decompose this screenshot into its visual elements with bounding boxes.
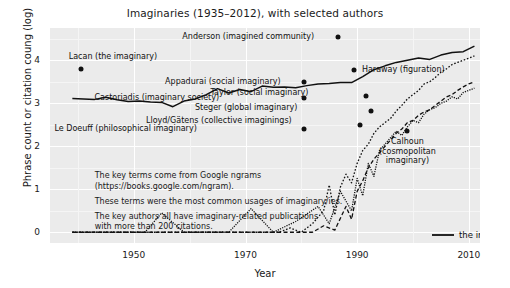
annotation-label: Haraway (figuration)	[362, 65, 445, 75]
note-paragraph: These terms were the most common usages …	[95, 197, 343, 208]
note-paragraph: The key terms come from Google ngrams(ht…	[95, 171, 343, 193]
x-tick-label: 1950	[104, 250, 164, 260]
annotation-label: Lacan (the imaginary)	[69, 52, 157, 62]
note-line: with more than 200 citations.	[95, 222, 213, 231]
legend-line-swatch	[432, 242, 454, 243]
annotation-point	[405, 129, 410, 134]
x-tick-label: 1990	[327, 250, 387, 260]
y-tick-label: 4	[0, 55, 40, 65]
annotation-label: Calhoun(cosmopolitanimaginary)	[367, 137, 447, 166]
annotation-point	[302, 96, 307, 101]
x-tick-label: 2010	[439, 250, 499, 260]
annotation-line: imaginary)	[367, 156, 447, 166]
note-line: The key terms come from Google ngrams	[95, 171, 261, 180]
annotation-point	[363, 93, 368, 98]
note-line: The key authors all have imaginary-relat…	[95, 212, 318, 221]
note-line: (https://books.google.com/ngram).	[95, 182, 234, 191]
notes-block: The key terms come from Google ngrams(ht…	[95, 171, 343, 233]
chart-title: Imaginaries (1935–2012), with selected a…	[0, 7, 510, 19]
legend-label: the imaginary	[459, 230, 480, 240]
annotation-label: Appadurai (social imaginary)	[50, 77, 285, 87]
annotation-point	[302, 79, 307, 84]
legend-label: social imaginary	[459, 242, 480, 243]
y-tick-label: 1	[0, 184, 40, 194]
annotation-point	[335, 34, 340, 39]
x-tick-label: 1970	[215, 250, 275, 260]
chart-legend: the imaginarysocial imaginarycultural im…	[432, 229, 480, 243]
legend-item[interactable]: the imaginary	[432, 229, 480, 241]
annotation-label: Le Doeuff (philosophical imaginary)	[50, 124, 201, 134]
legend-line-swatch	[432, 230, 454, 240]
y-tick-label: 2	[0, 141, 40, 151]
y-tick-label: 0	[0, 227, 40, 237]
note-line: These terms were the most common usages …	[95, 197, 343, 206]
annotation-label: Castoriadis (imaginary society)	[50, 93, 223, 103]
annotation-point	[78, 66, 83, 71]
annotation-label: Anderson (imagined community)	[50, 32, 318, 42]
x-axis-label: Year	[50, 268, 480, 279]
legend-item[interactable]: social imaginary	[432, 241, 480, 243]
annotation-point	[352, 67, 357, 72]
annotation-line: (cosmopolitan	[367, 147, 447, 157]
note-paragraph: The key authors all have imaginary-relat…	[95, 212, 343, 234]
plot-area: Anderson (imagined community)Lacan (the …	[50, 28, 480, 243]
chart-figure: Imaginaries (1935–2012), with selected a…	[0, 0, 510, 288]
annotation-point	[302, 127, 307, 132]
y-tick-label: 3	[0, 98, 40, 108]
annotation-point	[357, 122, 362, 127]
annotation-label: Steger (global imaginary)	[50, 103, 301, 113]
annotation-line: Calhoun	[367, 137, 447, 147]
annotation-point	[369, 108, 374, 113]
